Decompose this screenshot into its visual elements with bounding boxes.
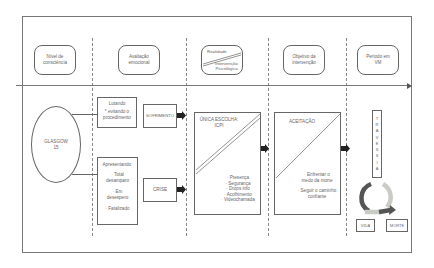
timeline-arrowhead-icon bbox=[407, 83, 412, 89]
apresentando-title: Apresentando: bbox=[98, 162, 137, 168]
header-label: Psicológica bbox=[215, 66, 238, 71]
diagonal-icon bbox=[274, 112, 341, 215]
apresentando-item: desespero bbox=[98, 195, 137, 201]
unica-escolha-subtitle: ICPI bbox=[199, 123, 239, 129]
connector-glasgow-apresentando bbox=[72, 174, 97, 175]
connector-glasgow-lutando bbox=[72, 114, 97, 115]
travessia-letter: A bbox=[376, 166, 379, 172]
glasgow-node: GLASGOW 15 bbox=[31, 106, 81, 183]
header-label: intervenção bbox=[292, 60, 316, 66]
header-periodo-vm: Período em VM bbox=[357, 45, 399, 75]
lutando-line: procedimento bbox=[98, 115, 136, 121]
morte-label: MORTE bbox=[390, 223, 404, 228]
column-divider-1 bbox=[92, 38, 93, 236]
column-divider-3 bbox=[268, 38, 269, 236]
unica-escolha-item: · Videochamada bbox=[217, 197, 259, 203]
lutando-box: Lutando * evitando o procedimento bbox=[97, 97, 137, 128]
apresentando-item: · Fatalizado bbox=[98, 206, 137, 212]
header-label: consciência bbox=[43, 60, 67, 66]
apresentando-item: desamparo bbox=[98, 178, 137, 184]
aceitacao-title: ACEITAÇÃO bbox=[285, 119, 319, 125]
header-label: VM bbox=[366, 60, 390, 66]
morte-box: MORTE bbox=[386, 219, 408, 232]
column-divider-2 bbox=[186, 38, 187, 236]
aceitacao-box: ACEITAÇÃO · Enfrentar o medo da morte · … bbox=[274, 112, 341, 215]
arrow-right-icon bbox=[260, 144, 269, 153]
arrow-right-icon bbox=[177, 185, 186, 194]
apresentando-box: Apresentando: · Total desamparo · Em des… bbox=[97, 157, 138, 225]
header-avaliacao-emocional: Avaliação emocional bbox=[118, 45, 160, 75]
vida-label: VIDA bbox=[361, 223, 370, 228]
glasgow-label: GLASGOW bbox=[44, 139, 68, 145]
aceitacao-item: confiante bbox=[295, 194, 339, 200]
crise-label: CRISE bbox=[153, 187, 167, 193]
vida-box: VIDA bbox=[356, 219, 375, 232]
arrow-right-icon bbox=[177, 111, 186, 120]
arrow-right-icon bbox=[341, 144, 350, 153]
sofrimento-box: SOFRIMENTO bbox=[143, 104, 177, 128]
aceitacao-item: medo da morte bbox=[295, 178, 339, 184]
header-realidade-intervencao: Realidade Intervenção Psicológica bbox=[201, 45, 243, 75]
cycle-arrows-icon bbox=[357, 181, 397, 217]
aceitacao-item: · Seguir o caminho bbox=[295, 188, 339, 194]
timeline-line bbox=[16, 85, 408, 86]
header-objetivo-intervencao: Objetivo da intervenção bbox=[283, 45, 325, 75]
travessia-box: T R A V E S S I A bbox=[372, 110, 382, 178]
crise-box: CRISE bbox=[143, 178, 177, 202]
glasgow-value: 15 bbox=[44, 145, 68, 151]
header-nivel-consciencia: Nível de consciência bbox=[34, 45, 76, 75]
header-label: emocional bbox=[129, 60, 150, 66]
lutando-title: Lutando bbox=[98, 101, 136, 107]
unica-escolha-box: ÚNICA ESCOLHA: ICPI · Presença · Seguran… bbox=[194, 112, 261, 215]
column-divider-4 bbox=[346, 38, 347, 236]
sofrimento-label: SOFRIMENTO bbox=[146, 113, 174, 119]
